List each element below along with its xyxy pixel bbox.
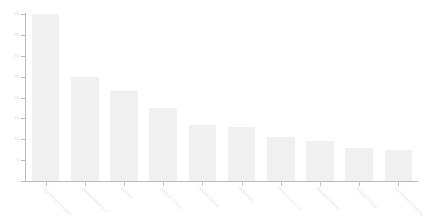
x-axis-label: Environmental Sciences bbox=[394, 187, 424, 217]
x-axis-label: Biological Sciences bbox=[315, 187, 340, 212]
y-axis-tick bbox=[21, 181, 25, 182]
x-axis-label: Engineering & Research bbox=[41, 187, 71, 217]
x-axis-tick bbox=[85, 182, 86, 186]
x-axis-tick bbox=[320, 182, 321, 186]
y-axis-tick-label: 30 bbox=[0, 54, 19, 58]
bar bbox=[267, 137, 294, 181]
x-axis-tick bbox=[281, 182, 282, 186]
y-axis-line bbox=[25, 13, 26, 182]
x-axis-tick bbox=[124, 182, 125, 186]
x-axis-label: Computer Science bbox=[159, 187, 183, 211]
y-axis-tick-label: 40 bbox=[0, 12, 19, 16]
x-axis-label: Social Sciences, BS bbox=[276, 187, 302, 213]
y-axis-tick bbox=[21, 98, 25, 99]
x-axis-tick bbox=[163, 182, 164, 186]
bar bbox=[306, 141, 333, 181]
bar bbox=[345, 148, 372, 181]
y-axis-tick-label: 20 bbox=[0, 96, 19, 100]
x-axis-tick bbox=[359, 182, 360, 186]
x-axis-tick bbox=[398, 182, 399, 186]
bar bbox=[228, 127, 255, 181]
y-axis-tick bbox=[21, 77, 25, 78]
x-axis-tick bbox=[202, 182, 203, 186]
bar bbox=[149, 108, 176, 181]
y-axis-tick bbox=[21, 56, 25, 57]
y-axis-tick-label: 10 bbox=[0, 137, 19, 141]
bar-chart: 4035302520151050 Engineering & ResearchC… bbox=[0, 0, 428, 223]
y-axis-tick-label: 5 bbox=[0, 158, 19, 162]
y-axis-tick bbox=[21, 35, 25, 36]
bar bbox=[110, 91, 137, 181]
bar bbox=[189, 125, 216, 181]
x-axis-label: Physical Sciences bbox=[355, 187, 378, 210]
y-axis-tick bbox=[21, 14, 25, 15]
x-axis-label: Communications & IT bbox=[80, 187, 107, 214]
y-axis-tick-label: 35 bbox=[0, 33, 19, 37]
x-axis-tick bbox=[46, 182, 47, 186]
bar bbox=[385, 150, 412, 181]
x-axis-label: Business bbox=[119, 187, 132, 200]
x-axis-label: Mathematics bbox=[237, 187, 254, 204]
x-axis-label: Applied Sciences bbox=[198, 187, 220, 209]
y-axis-tick-label: 25 bbox=[0, 75, 19, 79]
bar bbox=[32, 14, 59, 181]
bar bbox=[71, 77, 98, 181]
y-axis-tick bbox=[21, 118, 25, 119]
y-axis-tick-label: 0 bbox=[0, 179, 19, 183]
y-axis-tick bbox=[21, 160, 25, 161]
x-axis-tick bbox=[242, 182, 243, 186]
y-axis-tick-label: 15 bbox=[0, 116, 19, 120]
y-axis-tick bbox=[21, 139, 25, 140]
